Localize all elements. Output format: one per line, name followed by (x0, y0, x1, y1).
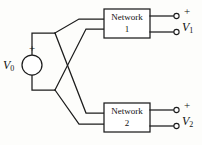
source-voltage-subscript: 0 (10, 64, 14, 73)
network-2-output-plus: + (184, 99, 190, 111)
wire-source-top-branch (32, 33, 55, 55)
voltage-source-symbol (22, 55, 42, 75)
circuit-diagram: Network 1 Network 2 + V0 + V1 + V2 (0, 0, 202, 145)
network-2-label-line1: Network (111, 106, 143, 116)
terminal-v1-negative (174, 29, 179, 34)
terminal-v1-positive (174, 13, 179, 18)
network-1-output-subscript: 1 (189, 26, 193, 35)
network-1-output-plus: + (184, 5, 190, 17)
wire-bottom-node-to-network1-lower (55, 29, 104, 90)
terminal-v2-positive (174, 107, 179, 112)
network-1-label-line2: 1 (125, 24, 130, 34)
terminal-v2-negative (174, 123, 179, 128)
source-voltage-label: V0 (3, 58, 14, 73)
network-2-output-subscript: 2 (189, 120, 193, 129)
network-1-label-line1: Network (111, 12, 143, 22)
network-2-output-label: V2 (182, 114, 193, 129)
network-1-output-label: V1 (182, 20, 193, 35)
source-polarity-plus: + (29, 42, 35, 54)
network-2-label-line2: 2 (125, 118, 130, 128)
wire-top-node-to-network1-upper (55, 19, 104, 33)
circuit-svg: Network 1 Network 2 + V0 + V1 + V2 (0, 0, 202, 145)
wire-source-bottom-branch (32, 75, 55, 90)
